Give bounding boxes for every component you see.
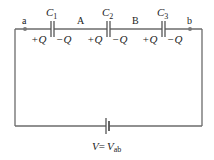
c3-plus-charge: +Q [142,33,157,45]
c1-plus-charge: +Q [31,33,46,45]
c1-minus-charge: −Q [56,33,71,45]
c3-minus-charge: −Q [167,33,182,45]
node-A-label: A [77,15,85,26]
node-b-label: b [187,15,192,26]
c3-label: C3 [157,6,168,21]
node-B-label: B [132,15,139,26]
circuit-diagram: a A B b C1 C2 C3 +Q −Q +Q −Q +Q −Q V=Vab [0,0,214,160]
node-a-dot [23,27,27,31]
source-label: V=Vab [92,140,121,154]
c1-label: C1 [46,6,57,21]
c2-plus-charge: +Q [87,33,102,45]
node-b-dot [188,27,192,31]
c2-minus-charge: −Q [112,33,127,45]
node-a-label: a [22,15,27,26]
battery-icon [106,118,109,134]
c2-label: C2 [102,6,113,21]
